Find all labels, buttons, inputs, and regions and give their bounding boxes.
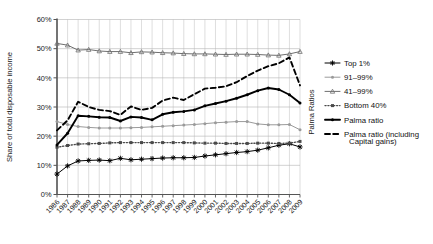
data-point-marker (213, 152, 218, 157)
data-point-marker (277, 142, 280, 145)
data-point-marker (129, 115, 132, 118)
data-point-marker (171, 155, 176, 160)
data-point-marker (299, 128, 302, 131)
data-point-marker (223, 151, 228, 156)
data-point-marker (119, 127, 122, 130)
data-point-marker (288, 142, 291, 145)
data-point-marker (193, 123, 196, 126)
data-point-marker (225, 100, 228, 103)
data-point-marker (66, 132, 69, 135)
data-point-marker (54, 171, 59, 176)
data-point-marker (119, 141, 122, 144)
data-point-marker (77, 143, 80, 146)
data-point-marker (246, 93, 249, 96)
data-point-marker (108, 141, 111, 144)
data-point-marker (86, 158, 91, 163)
data-point-marker (299, 140, 302, 143)
data-point-marker (129, 141, 132, 144)
series-line (57, 144, 300, 174)
data-point-marker (140, 141, 143, 144)
data-point-marker (277, 88, 280, 91)
data-point-marker (182, 110, 185, 113)
data-point-marker (267, 142, 270, 145)
data-point-marker (214, 121, 217, 124)
data-point-marker (255, 148, 260, 153)
series-91-99 (56, 120, 302, 131)
legend-label: Palma ratio (344, 116, 384, 125)
data-point-marker (256, 142, 259, 145)
data-point-marker (77, 114, 80, 117)
data-point-marker (297, 144, 302, 149)
series-41-99 (55, 41, 302, 57)
legend-item-1[interactable]: 91–99% (325, 73, 373, 82)
y-axis-tick-label: 40% (37, 74, 52, 83)
data-point-marker (77, 125, 80, 128)
data-point-marker (98, 116, 101, 119)
data-point-marker (192, 155, 197, 160)
series-line (57, 141, 300, 147)
data-point-marker (76, 158, 81, 163)
legend-label: 91–99% (344, 73, 373, 82)
series-line (57, 43, 300, 55)
series-bottom-40 (56, 140, 302, 149)
series-line (57, 122, 300, 130)
data-point-marker (129, 126, 132, 129)
data-point-marker (182, 141, 185, 144)
data-point-marker (98, 142, 101, 145)
legend-item-3[interactable]: Bottom 40% (325, 101, 387, 110)
legend-item-0[interactable]: Top 1% (325, 59, 370, 68)
data-point-marker (107, 158, 112, 163)
data-point-marker (97, 157, 102, 162)
data-point-marker (256, 122, 259, 125)
y-axis-tick-label: 60% (37, 15, 52, 24)
legend-item-2[interactable]: 41–99% (325, 87, 373, 96)
income-share-line-chart: 0%10%20%30%40%50%60%Share of total dispo… (0, 0, 433, 244)
data-point-marker (246, 120, 249, 123)
data-point-marker (161, 141, 164, 144)
legend-label-wrap: Capital gains) (349, 137, 397, 146)
data-point-marker (128, 157, 133, 162)
data-point-marker (330, 60, 335, 65)
data-point-marker (203, 142, 206, 145)
data-point-marker (299, 101, 302, 104)
y-axis-tick-label: 50% (37, 44, 52, 53)
y-axis-tick-label: 20% (37, 132, 52, 141)
data-point-marker (214, 102, 217, 105)
y-axis-title: Share of total disposable income (5, 52, 14, 162)
data-point-marker (172, 111, 175, 114)
data-point-marker (331, 76, 334, 79)
data-point-marker (267, 123, 270, 126)
series-palma-ratio (56, 87, 302, 147)
data-point-marker (151, 118, 154, 121)
data-point-marker (225, 142, 228, 145)
data-point-marker (108, 127, 111, 130)
data-point-marker (267, 87, 270, 90)
data-point-marker (172, 141, 175, 144)
grid-layer (57, 20, 300, 195)
series-layer (54, 41, 302, 176)
legend-item-4[interactable]: Palma ratio (325, 116, 384, 125)
data-point-marker (288, 93, 291, 96)
right-axis-title: Palma Ratios (307, 89, 316, 134)
data-point-marker (118, 156, 123, 161)
data-point-marker (87, 126, 90, 129)
y-axis-tick-label: 0% (41, 190, 52, 199)
data-point-marker (56, 120, 59, 123)
data-point-marker (140, 116, 143, 119)
data-point-marker (87, 115, 90, 118)
data-point-marker (225, 121, 228, 124)
data-point-marker (98, 127, 101, 130)
series-palma-ratio-including-capital-gains (57, 57, 300, 130)
data-point-marker (214, 142, 217, 145)
data-point-marker (108, 116, 111, 119)
data-point-marker (161, 113, 164, 116)
data-point-marker (56, 143, 59, 146)
data-point-marker (193, 141, 196, 144)
data-point-marker (65, 163, 70, 168)
legend-label: 41–99% (344, 87, 373, 96)
data-point-marker (161, 125, 164, 128)
data-point-marker (193, 108, 196, 111)
data-point-marker (151, 141, 154, 144)
data-point-marker (235, 120, 238, 123)
data-point-marker (331, 118, 334, 121)
